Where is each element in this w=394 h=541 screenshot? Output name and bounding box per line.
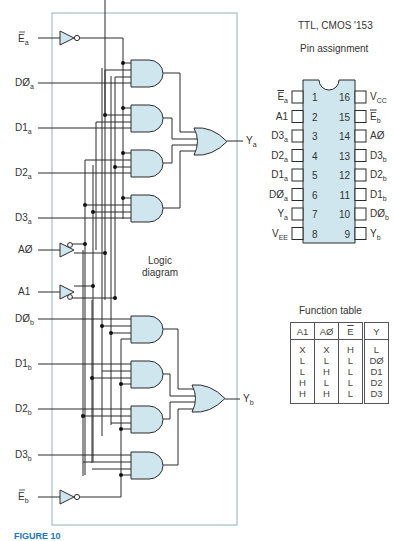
label-d3a: D3a — [15, 212, 32, 225]
label-a1: A1 — [18, 286, 31, 297]
table-row: LLLDØ — [291, 355, 389, 366]
pin-number: 10 — [339, 209, 351, 220]
pin-label-left: Ya — [277, 208, 288, 221]
pin-label-right: D3b — [370, 150, 387, 163]
figure-caption: FIGURE 10 — [14, 531, 61, 541]
pin-5 — [292, 169, 303, 181]
table-row: LHLD1 — [291, 366, 389, 377]
or-gate-a — [194, 128, 227, 155]
function-table: A1 AØ E Y XXHL LLLDØ LHLD1 HLLD2 HHLD3 — [290, 322, 389, 404]
inverter-eb-icon — [60, 490, 74, 504]
label-d1b: D1b — [15, 358, 32, 371]
pin-3 — [292, 130, 303, 142]
label-d1a: D1a — [15, 122, 32, 135]
col-y: Y — [364, 323, 389, 340]
input-labels: Ea DØa D1a D2a D3a AØ A1 DØb D1b D2b D3b… — [15, 32, 34, 504]
pin-assignment-title: Pin assignment — [300, 43, 369, 54]
and-gate-a2 — [131, 150, 163, 177]
pin-number: 1 — [312, 92, 318, 103]
pin-number: 6 — [312, 190, 318, 201]
pin-13 — [355, 150, 366, 162]
and-gate-b2 — [131, 406, 163, 433]
pin-label-right: Yb — [370, 228, 381, 241]
label-d0b: DØb — [15, 313, 34, 326]
and-gate-b1 — [131, 361, 163, 388]
pin-2 — [292, 111, 303, 123]
pin-10 — [355, 208, 366, 220]
pin-label-right: DØb — [370, 208, 389, 221]
inverter-ea-icon — [60, 31, 74, 45]
family-title: TTL, CMOS '153 — [298, 20, 373, 31]
label-d3b: D3b — [15, 449, 32, 462]
label-d0a: DØa — [15, 77, 34, 90]
pin-number: 16 — [339, 92, 351, 103]
pin-number: 15 — [339, 112, 351, 123]
table-row: HHLD3 — [291, 388, 389, 404]
logic-label-1: Logic — [148, 255, 172, 266]
pin-label-left: A1 — [276, 111, 289, 122]
pin-number: 3 — [312, 131, 318, 142]
pin-label-right: Eb — [370, 111, 381, 124]
and-gate-b0 — [131, 316, 163, 343]
pin-number: 9 — [344, 229, 350, 240]
label-yb: Yb — [243, 393, 254, 406]
pin-number: 12 — [339, 170, 351, 181]
pin-number: 7 — [312, 209, 318, 220]
pin-number: 4 — [312, 151, 318, 162]
label-eb: Eb — [18, 491, 29, 504]
pin-number: 14 — [339, 131, 351, 142]
pin-14 — [355, 130, 366, 142]
pin-label-right: D2b — [370, 169, 387, 182]
pin-11 — [355, 189, 366, 201]
and-gate-b3 — [131, 452, 163, 479]
pin-7 — [292, 208, 303, 220]
or-gate-b — [192, 385, 225, 412]
col-e: E — [339, 323, 364, 340]
pin-9 — [355, 228, 366, 240]
pin-label-left: Ea — [277, 91, 288, 104]
and-gate-a1 — [131, 105, 163, 132]
and-gate-a3 — [131, 195, 163, 222]
table-row: HLLD2 — [291, 377, 389, 388]
pin-4 — [292, 150, 303, 162]
pin-6 — [292, 189, 303, 201]
label-d2a: D2a — [15, 167, 32, 180]
pin-15 — [355, 111, 366, 123]
table-row: XXHL — [291, 340, 389, 356]
pin-16 — [355, 91, 366, 103]
pin-label-right: D1b — [370, 189, 387, 202]
pin-label-left: D3a — [271, 130, 288, 143]
pin-12 — [355, 169, 366, 181]
pin-label-left: D1a — [271, 169, 288, 182]
col-a0: AØ — [315, 323, 339, 340]
pin-label-left: VEE — [272, 228, 288, 241]
pin-number: 13 — [339, 151, 351, 162]
function-table-title: Function table — [299, 305, 362, 316]
logic-label-2: diagram — [142, 267, 178, 278]
pin-label-right: VCC — [370, 91, 387, 104]
col-a1: A1 — [291, 323, 315, 340]
label-d2b: D2b — [15, 403, 32, 416]
pin-label-left: DØa — [269, 189, 288, 202]
label-a0: AØ — [18, 244, 33, 255]
pin-8 — [292, 228, 303, 240]
function-table-header: A1 AØ E Y — [291, 323, 389, 340]
pin-label-right: AØ — [370, 130, 385, 141]
pin-number: 5 — [312, 170, 318, 181]
label-ya: Ya — [246, 135, 257, 148]
pin-number: 11 — [340, 190, 351, 201]
pin-number: 8 — [312, 229, 318, 240]
label-ea: Ea — [18, 33, 29, 46]
pin-label-left: D2a — [271, 150, 288, 163]
pin-1 — [292, 91, 303, 103]
pin-number: 2 — [312, 112, 318, 123]
and-gate-a0 — [131, 60, 163, 87]
